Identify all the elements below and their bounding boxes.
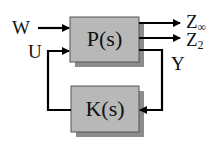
z2-base: Z xyxy=(186,29,198,50)
y-signal-label: Y xyxy=(171,54,185,73)
z2-subscript: 2 xyxy=(198,38,204,52)
u-feedback-arrow xyxy=(48,51,71,110)
w-signal-label: W xyxy=(12,18,30,37)
plant-label: P(s) xyxy=(70,28,139,50)
z2-signal-label: Z2 xyxy=(186,30,204,51)
u-signal-label: U xyxy=(28,42,42,61)
controller-label: K(s) xyxy=(71,98,139,120)
